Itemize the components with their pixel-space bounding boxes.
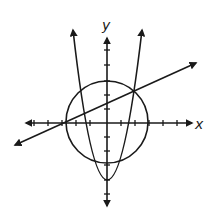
x-axis: x — [26, 116, 204, 132]
y-axis-label: y — [101, 17, 111, 33]
coordinate-graph: x y — [0, 0, 215, 220]
x-axis-label: x — [194, 116, 204, 132]
line-curve — [15, 63, 196, 145]
